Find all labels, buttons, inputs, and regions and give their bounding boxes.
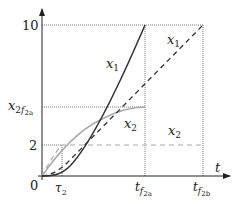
y-tick-2: 2 <box>29 138 37 153</box>
diagram: 10 2 0 x2f2a t τ2 tf2a tf2b x1 x1 x2 x2 <box>0 0 238 204</box>
x-tick-tau2: τ2 <box>55 181 67 197</box>
label-x2-solid: x2 <box>124 116 137 133</box>
origin-label: 0 <box>30 178 38 193</box>
x-axis-label: t <box>215 160 221 175</box>
x-tick-tf2a: tf2a <box>135 180 152 198</box>
x-tick-tf2b: tf2b <box>193 180 211 198</box>
label-x1-dashed: x1 <box>167 32 180 49</box>
label-x2-dashed: x2 <box>168 123 181 140</box>
curve-x2-dashed <box>42 145 203 176</box>
y-tick-x2f2a: x2f2a <box>8 98 33 117</box>
label-x1-solid: x1 <box>106 56 119 73</box>
curve-x1-solid <box>42 25 145 176</box>
y-tick-10: 10 <box>22 18 39 33</box>
